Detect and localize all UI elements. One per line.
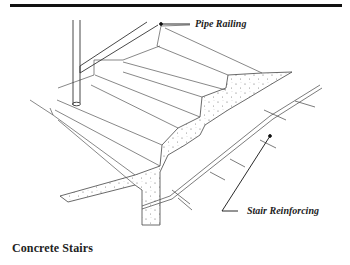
stair-reinforcing-label: Stair Reinforcing	[247, 205, 319, 216]
figure-caption: Concrete Stairs	[12, 241, 93, 256]
pipe-railing-label: Pipe Railing	[195, 18, 246, 29]
concrete-stairs-illustration	[0, 0, 350, 265]
pipe-railing	[73, 20, 159, 106]
concrete-section	[60, 72, 292, 225]
